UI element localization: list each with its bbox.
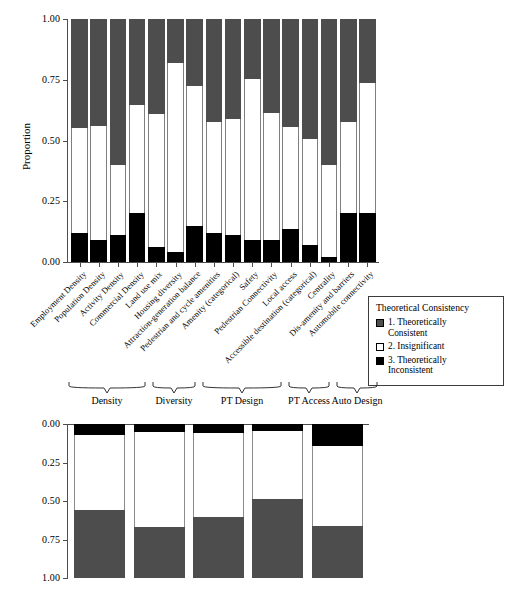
bar-segment-consistent: [225, 19, 242, 119]
bar-segment-insignificant: [74, 435, 125, 510]
bar-segment-insignificant: [263, 113, 280, 241]
group-brace-5: [336, 381, 378, 394]
bar-segment-inconsistent: [148, 247, 165, 262]
bottom-y-tick-label: 0.75: [8, 534, 60, 545]
bar-segment-insignificant: [312, 446, 363, 526]
top-bar-9[interactable]: [225, 19, 242, 262]
top-bar-3[interactable]: [110, 19, 127, 262]
group-label-auto-design: Auto Design: [316, 395, 398, 406]
top-x-tick: [99, 263, 100, 267]
bar-segment-insignificant: [282, 127, 299, 229]
legend-label-insignificant: 2. Insignificant: [388, 341, 444, 352]
bar-segment-insignificant: [244, 79, 261, 241]
top-y-axis-line: [67, 19, 68, 263]
top-bar-8[interactable]: [206, 19, 223, 262]
bar-segment-insignificant: [129, 105, 146, 213]
top-x-tick: [195, 263, 196, 267]
bar-segment-inconsistent: [312, 424, 363, 446]
bar-segment-consistent: [186, 19, 203, 86]
top-x-tick: [118, 263, 119, 267]
bar-segment-consistent: [282, 19, 299, 127]
figure-stacked-bar-theoretical-consistency: 1.00 0.75 0.50 0.25 0.00 Proportion Empl…: [0, 0, 509, 599]
bar-segment-consistent: [359, 19, 376, 83]
top-x-tick: [348, 263, 349, 267]
top-bar-2[interactable]: [90, 19, 107, 262]
bar-segment-consistent: [148, 19, 165, 114]
top-bar-6[interactable]: [167, 19, 184, 262]
bar-segment-inconsistent: [359, 213, 376, 262]
bottom-plot-area: [70, 424, 367, 578]
legend-item-inconsistent[interactable]: 3. TheoreticallyInconsistent: [376, 355, 497, 376]
top-bar-11[interactable]: [263, 19, 280, 262]
legend-label-consistent: 1. TheoreticallyConsistent: [388, 317, 447, 338]
bar-segment-inconsistent: [244, 240, 261, 262]
top-bar-15[interactable]: [340, 19, 357, 262]
top-y-axis-title: Proportion: [20, 123, 32, 170]
legend-label-inconsistent: 3. TheoreticallyInconsistent: [388, 355, 447, 376]
top-x-tick: [156, 263, 157, 267]
bar-segment-insignificant: [186, 86, 203, 226]
top-x-tick: [176, 263, 177, 267]
top-y-tick-label: 0.25: [8, 195, 60, 206]
top-x-tick: [214, 263, 215, 267]
bar-segment-inconsistent: [193, 424, 244, 433]
top-x-tick: [291, 263, 292, 267]
bar-segment-inconsistent: [206, 233, 223, 262]
bottom-bar-density[interactable]: [74, 424, 125, 578]
bottom-y-axis-line: [67, 424, 68, 579]
top-x-tick: [271, 263, 272, 267]
bar-segment-insignificant: [340, 122, 357, 213]
bottom-y-tick-label: 0.25: [8, 457, 60, 468]
bar-segment-consistent: [129, 19, 146, 105]
bottom-bar-pt-access[interactable]: [252, 424, 303, 578]
top-bar-10[interactable]: [244, 19, 261, 262]
legend-title: Theoretical Consistency: [376, 302, 497, 313]
top-bar-16[interactable]: [359, 19, 376, 262]
bar-segment-inconsistent: [167, 252, 184, 262]
bar-segment-consistent: [340, 19, 357, 122]
bar-segment-consistent: [134, 527, 185, 578]
legend-item-consistent[interactable]: 1. TheoreticallyConsistent: [376, 317, 497, 338]
top-bar-14[interactable]: [321, 19, 338, 262]
bar-segment-consistent: [74, 510, 125, 578]
legend-theoretical-consistency: Theoretical Consistency 1. Theoretically…: [368, 296, 504, 386]
top-bar-1[interactable]: [71, 19, 88, 262]
bar-segment-inconsistent: [90, 240, 107, 262]
bar-segment-insignificant: [359, 83, 376, 213]
bar-segment-insignificant: [71, 128, 88, 232]
bar-segment-insignificant: [90, 126, 107, 240]
legend-swatch-inconsistent-icon: [376, 357, 384, 365]
top-x-axis-line: [67, 262, 379, 263]
bar-segment-consistent: [302, 19, 319, 139]
top-bar-12[interactable]: [282, 19, 299, 262]
top-bar-5[interactable]: [148, 19, 165, 262]
bar-segment-inconsistent: [74, 424, 125, 435]
top-bar-4[interactable]: [129, 19, 146, 262]
top-y-tick-label: 0.75: [8, 74, 60, 85]
bar-segment-consistent: [263, 19, 280, 113]
bottom-bar-auto-design[interactable]: [312, 424, 363, 578]
bar-segment-inconsistent: [321, 257, 338, 262]
bar-segment-consistent: [167, 19, 184, 63]
top-x-tick: [233, 263, 234, 267]
bar-segment-inconsistent: [263, 240, 280, 262]
bottom-y-tick-label: 0.50: [8, 495, 60, 506]
bar-segment-insignificant: [225, 119, 242, 236]
top-x-tick: [80, 263, 81, 267]
bar-segment-consistent: [90, 19, 107, 126]
bar-segment-consistent: [244, 19, 261, 79]
bar-segment-consistent: [193, 517, 244, 578]
bar-segment-consistent: [312, 526, 363, 578]
bottom-bar-pt-design[interactable]: [193, 424, 244, 578]
top-bar-7[interactable]: [186, 19, 203, 262]
group-brace-3: [202, 381, 282, 394]
legend-item-insignificant[interactable]: 2. Insignificant: [376, 341, 497, 352]
top-bar-13[interactable]: [302, 19, 319, 262]
bar-segment-inconsistent: [129, 213, 146, 262]
group-brace-4: [288, 381, 330, 394]
legend-swatch-insignificant-icon: [376, 343, 384, 351]
bottom-bar-diversity[interactable]: [134, 424, 185, 578]
bar-segment-inconsistent: [134, 424, 185, 432]
bar-segment-insignificant: [167, 63, 184, 253]
top-x-tick: [367, 263, 368, 267]
